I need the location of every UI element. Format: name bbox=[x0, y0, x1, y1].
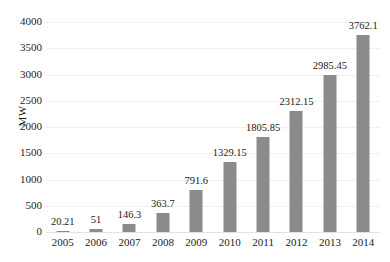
bar-value-label: 2985.45 bbox=[313, 60, 347, 71]
bar bbox=[290, 111, 303, 232]
bar-series: 20.2151146.3363.7791.61329.151805.852312… bbox=[46, 22, 380, 232]
bar-value-label: 20.21 bbox=[51, 216, 75, 227]
y-axis-tick-label: 1500 bbox=[2, 147, 42, 158]
y-axis-tick-label: 2500 bbox=[2, 95, 42, 106]
x-axis-tick-label: 2012 bbox=[286, 236, 308, 249]
bar-group: 791.6 bbox=[180, 22, 213, 232]
x-axis-tick-label: 2010 bbox=[219, 236, 241, 249]
bar-group: 146.3 bbox=[113, 22, 146, 232]
bar-group: 363.7 bbox=[146, 22, 179, 232]
bar-group: 2312.15 bbox=[280, 22, 313, 232]
y-axis-tick-label: 4000 bbox=[2, 16, 42, 27]
bar bbox=[156, 213, 169, 232]
x-axis-tick-label: 2013 bbox=[319, 236, 341, 249]
bar-group: 2985.45 bbox=[313, 22, 346, 232]
x-axis-tick-labels: 2005200620072008200920102011201220132014 bbox=[46, 236, 380, 254]
bar bbox=[90, 229, 103, 232]
y-axis-tick-label: 2000 bbox=[2, 121, 42, 132]
bar bbox=[123, 224, 136, 232]
bar-value-label: 363.7 bbox=[151, 198, 175, 209]
bar-value-label: 791.6 bbox=[184, 175, 208, 186]
y-axis-tick-label: 1000 bbox=[2, 174, 42, 185]
x-axis-tick-label: 2005 bbox=[52, 236, 74, 249]
axis-baseline bbox=[46, 232, 380, 233]
y-axis-tick-label: 0 bbox=[2, 226, 42, 237]
bar-group: 51 bbox=[79, 22, 112, 232]
bar-value-label: 1805.85 bbox=[246, 122, 280, 133]
bar bbox=[223, 162, 236, 232]
x-axis-tick-label: 2014 bbox=[352, 236, 374, 249]
bar-value-label: 1329.15 bbox=[213, 147, 247, 158]
bar-group: 1329.15 bbox=[213, 22, 246, 232]
x-axis-tick-label: 2009 bbox=[185, 236, 207, 249]
bar bbox=[257, 137, 270, 232]
bar bbox=[56, 231, 69, 232]
bar bbox=[323, 75, 336, 232]
bar-group: 1805.85 bbox=[246, 22, 279, 232]
bar bbox=[190, 190, 203, 232]
bar-value-label: 146.3 bbox=[118, 209, 142, 220]
bar-value-label: 51 bbox=[91, 214, 102, 225]
bar-group: 3762.1 bbox=[347, 22, 380, 232]
y-axis-tick-label: 3000 bbox=[2, 69, 42, 80]
x-axis-tick-label: 2006 bbox=[85, 236, 107, 249]
y-axis-tick-labels: 05001000150020002500300035004000 bbox=[0, 22, 42, 232]
x-axis-tick-label: 2008 bbox=[152, 236, 174, 249]
bar-chart: MW 05001000150020002500300035004000 20.2… bbox=[0, 0, 390, 262]
y-axis-tick-label: 3500 bbox=[2, 42, 42, 53]
y-axis-tick-label: 500 bbox=[2, 200, 42, 211]
bar-value-label: 3762.1 bbox=[349, 20, 378, 31]
x-axis-tick-label: 2007 bbox=[119, 236, 141, 249]
bar-value-label: 2312.15 bbox=[279, 96, 313, 107]
bar bbox=[357, 35, 370, 233]
bar-group: 20.21 bbox=[46, 22, 79, 232]
x-axis-tick-label: 2011 bbox=[252, 236, 274, 249]
